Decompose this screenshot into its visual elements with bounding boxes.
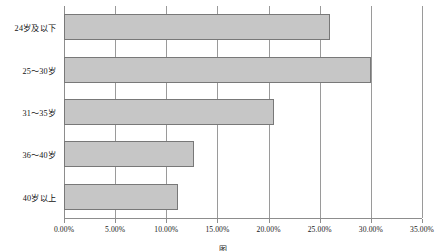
plot-area	[64, 6, 422, 218]
bar	[64, 57, 371, 83]
y-axis-tick-label: 31～35岁	[22, 106, 56, 118]
bar	[64, 14, 330, 40]
bar-band	[64, 6, 422, 48]
bar	[64, 141, 194, 167]
bar-band	[64, 48, 422, 90]
bar-series	[64, 6, 422, 218]
x-axis-tick-mark	[269, 219, 270, 223]
y-axis-labels: 24岁及以下 25～30岁 31～35岁 36～40岁 40岁以上	[0, 6, 60, 218]
y-axis-label-row: 25～30岁	[0, 48, 60, 90]
x-axis-tick-mark	[422, 219, 423, 223]
bar-band	[64, 176, 422, 218]
y-axis-tick-label: 40岁以上	[23, 191, 56, 203]
x-axis-tick-label: 15.00%	[205, 225, 229, 234]
y-axis-tick-label: 25～30岁	[22, 64, 56, 76]
y-axis-label-row: 40岁以上	[0, 176, 60, 218]
x-axis-labels: 0.00%5.00%10.00%15.00%20.00%25.00%30.00%…	[64, 219, 422, 235]
figure-caption: 图	[0, 243, 445, 251]
x-axis-tick-label: 5.00%	[105, 225, 125, 234]
y-axis-tick-label: 24岁及以下	[15, 21, 56, 33]
bar-band	[64, 133, 422, 175]
y-axis-label-row: 24岁及以下	[0, 6, 60, 48]
x-axis-tick-label: 25.00%	[308, 225, 332, 234]
x-axis-tick-mark	[320, 219, 321, 223]
x-axis-tick-label: 35.00%	[410, 225, 434, 234]
bar-band	[64, 91, 422, 133]
x-axis-tick-label: 30.00%	[359, 225, 383, 234]
x-axis-tick-mark	[217, 219, 218, 223]
y-axis-label-row: 36～40岁	[0, 133, 60, 175]
y-axis-tick-label: 36～40岁	[22, 148, 56, 160]
y-axis-label-row: 31～35岁	[0, 91, 60, 133]
x-axis-tick-mark	[115, 219, 116, 223]
gridline-vertical	[422, 6, 423, 218]
x-axis-tick-label: 10.00%	[154, 225, 178, 234]
x-axis-tick-mark	[166, 219, 167, 223]
bar	[64, 184, 178, 210]
x-axis-tick-label: 20.00%	[257, 225, 281, 234]
x-axis-tick-label: 0.00%	[54, 225, 74, 234]
x-axis-tick-mark	[64, 219, 65, 223]
x-axis-tick-mark	[371, 219, 372, 223]
figure-container: 24岁及以下 25～30岁 31～35岁 36～40岁 40岁以上 0.00%5…	[0, 0, 445, 251]
bar	[64, 99, 274, 125]
